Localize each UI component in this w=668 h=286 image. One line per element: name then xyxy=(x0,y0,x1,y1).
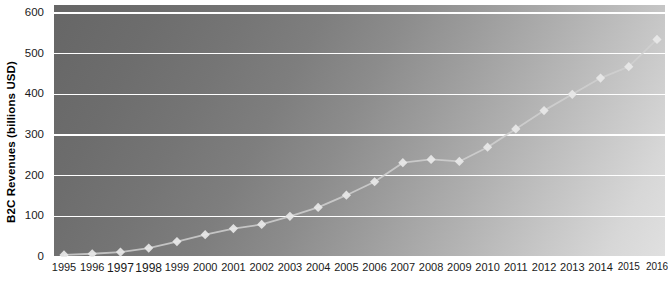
y-axis-tick-label: 100 xyxy=(25,211,44,223)
x-axis-tick-label: 2003 xyxy=(278,262,302,273)
data-point-marker xyxy=(201,230,210,239)
x-axis-tick-label: 1995 xyxy=(52,262,76,273)
data-point-marker xyxy=(539,106,548,115)
data-point-marker xyxy=(172,237,181,246)
data-point-marker xyxy=(59,250,68,257)
y-axis-tick-label: 500 xyxy=(25,48,44,60)
data-point-marker xyxy=(342,191,351,200)
data-series-line xyxy=(54,5,665,257)
x-axis-tick-label: 2014 xyxy=(588,262,612,273)
x-axis-tick-label: 2006 xyxy=(362,262,386,273)
plot-area xyxy=(54,5,665,257)
x-axis-tick-label: 2011 xyxy=(504,262,528,273)
data-point-marker xyxy=(116,248,125,257)
x-axis-tick-labels: 1995199619971998199920002001200220032004… xyxy=(54,262,665,282)
x-axis-tick-label: 2016 xyxy=(646,262,668,272)
x-axis-tick-label: 2015 xyxy=(618,262,640,272)
data-point-marker xyxy=(596,73,605,82)
x-axis-tick-label: 2005 xyxy=(334,262,358,273)
data-point-marker xyxy=(229,224,238,233)
x-axis-tick-label: 2013 xyxy=(560,262,584,273)
x-axis-tick-label: 1996 xyxy=(80,262,104,273)
x-axis-tick-label: 2002 xyxy=(249,262,273,273)
x-axis-tick-label: 2010 xyxy=(475,262,499,273)
data-point-marker xyxy=(455,157,464,166)
x-axis-tick-label: 1999 xyxy=(165,262,189,273)
x-axis-tick-label: 2012 xyxy=(532,262,556,273)
x-axis-tick-label: 1997 xyxy=(107,262,134,274)
data-point-marker xyxy=(511,124,520,133)
y-axis-tick-label: 400 xyxy=(25,89,44,101)
y-axis-tick-labels: 0100200300400500600 xyxy=(0,0,52,286)
x-axis-tick-label: 2000 xyxy=(193,262,217,273)
series-line xyxy=(64,39,657,255)
x-axis-tick-label: 2008 xyxy=(419,262,443,273)
data-point-marker xyxy=(426,155,435,164)
y-axis-tick-label: 200 xyxy=(25,170,44,182)
data-point-marker xyxy=(88,249,97,257)
x-axis-tick-label: 1998 xyxy=(135,262,162,274)
x-axis-tick-label: 2009 xyxy=(447,262,471,273)
y-axis-tick-label: 300 xyxy=(25,129,44,141)
y-axis-tick-label: 600 xyxy=(25,7,44,19)
data-point-marker xyxy=(257,220,266,229)
data-point-marker xyxy=(568,90,577,99)
x-axis-tick-label: 2001 xyxy=(221,262,245,273)
data-point-marker xyxy=(483,143,492,152)
data-point-marker xyxy=(144,243,153,252)
y-axis-tick-label: 0 xyxy=(38,251,44,263)
data-point-marker xyxy=(314,203,323,212)
data-point-marker xyxy=(285,212,294,221)
x-axis-tick-label: 2004 xyxy=(306,262,330,273)
x-axis-tick-label: 2007 xyxy=(391,262,415,273)
